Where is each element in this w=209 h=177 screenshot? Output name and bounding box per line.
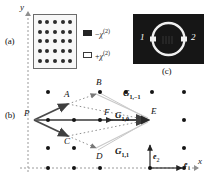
reciprocal-lattice-dot (46, 90, 50, 94)
reciprocal-lattice-dot (150, 90, 154, 94)
lattice-dot (61, 49, 65, 53)
lattice-dot (38, 39, 42, 43)
legend-swatch-open (83, 52, 92, 58)
vector-label-G11: G1,1 (115, 146, 129, 158)
vector-subscript-G1m1: 1,−1 (130, 94, 141, 100)
lattice-dot (53, 39, 57, 43)
legend-label-positive-chi2: +χ(2) (95, 50, 110, 61)
panel-a-lattice-box (33, 14, 77, 69)
lattice-dot (68, 30, 72, 34)
basis-label-e2: e2 (153, 152, 160, 163)
lattice-dot (61, 59, 65, 63)
arrow-g11-d-to-e (96, 122, 148, 148)
panel-a-dot-grid (34, 15, 76, 68)
panel-c-image: 1 2 (133, 14, 204, 64)
reciprocal-lattice-dot (182, 90, 186, 94)
basis-subscript-e1: 1 (188, 165, 191, 171)
vector-label-G10: G1,0 (115, 110, 129, 122)
port-1-label: 1 (140, 32, 145, 42)
port-2-label: 2 (191, 32, 196, 42)
lattice-dot (38, 30, 42, 34)
panel-b-svg (0, 72, 209, 177)
lattice-dot (45, 49, 49, 53)
reciprocal-lattice-dot (182, 118, 186, 122)
point-label-F: F (104, 107, 110, 117)
reciprocal-lattice-dot (182, 146, 186, 150)
point-label-C: C (64, 136, 70, 146)
lattice-dot (68, 59, 72, 63)
arrowhead-f (106, 117, 113, 123)
figure-root: y x (a) (b) (c) (0, 0, 209, 177)
point-label-D: D (96, 151, 103, 161)
lattice-dot (68, 39, 72, 43)
panel-b-diagram: P A B C D E F G1,−1 G1,0 G1,1 e2 e1 (0, 72, 209, 177)
lattice-dot (38, 49, 42, 53)
reciprocal-lattice-dot (72, 146, 76, 150)
reciprocal-lattice-dot (72, 166, 76, 170)
lattice-dot (45, 30, 49, 34)
lattice-dot (53, 49, 57, 53)
arrow-p-to-a (34, 104, 68, 120)
basis-label-e1: e1 (184, 160, 191, 171)
reciprocal-lattice-dot (98, 118, 102, 122)
lattice-dot (45, 20, 49, 24)
reciprocal-lattice-dot (98, 166, 102, 170)
vector-label-G1m1: G1,−1 (123, 88, 140, 100)
lattice-dot (61, 39, 65, 43)
point-label-A: A (64, 89, 70, 99)
point-label-E: E (151, 106, 157, 116)
lattice-dot (68, 49, 72, 53)
legend-swatch-filled (83, 30, 92, 36)
y-axis-label: y (20, 2, 24, 12)
reciprocal-lattice-dot (148, 166, 152, 170)
reciprocal-lattice-dot (98, 90, 102, 94)
reciprocal-lattice-dot (46, 146, 50, 150)
vector-subscript-G11: 1,1 (122, 152, 130, 158)
legend-item-negative-chi2: −χ(2) (83, 28, 110, 39)
reciprocal-lattice-dot (46, 166, 50, 170)
legend-item-positive-chi2: +χ(2) (83, 50, 110, 61)
lattice-dot (53, 20, 57, 24)
point-label-B: B (96, 77, 102, 87)
lattice-dot (38, 59, 42, 63)
reciprocal-lattice-dot (72, 118, 76, 122)
lattice-dot (53, 59, 57, 63)
lattice-dot (45, 59, 49, 63)
lattice-dot (61, 30, 65, 34)
basis-subscript-e2: 2 (157, 157, 160, 163)
lattice-dot (45, 39, 49, 43)
point-label-P: P (24, 108, 30, 118)
lattice-dot (53, 30, 57, 34)
port-1-coupler-icon (150, 37, 156, 42)
dotted-arrow-a-b (68, 94, 96, 104)
lattice-dot (68, 20, 72, 24)
lattice-dot (61, 20, 65, 24)
reciprocal-lattice-dot (46, 118, 50, 122)
legend-label-negative-chi2: −χ(2) (95, 28, 110, 39)
vector-subscript-G10: 1,0 (122, 116, 130, 122)
lattice-dot (38, 20, 42, 24)
arrow-p-to-c (34, 120, 68, 136)
port-2-coupler-icon (181, 37, 187, 42)
panel-tag-a: (a) (5, 36, 14, 46)
